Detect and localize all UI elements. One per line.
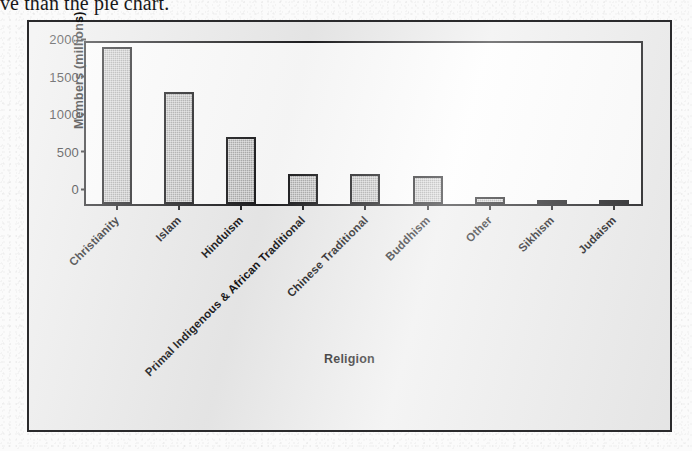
figure-frame: Members (millions) 0500100015002000 Chri… (27, 20, 672, 432)
bar-slot (272, 43, 334, 204)
x-tick-mark (427, 204, 429, 210)
x-axis-label-text: Judaism (576, 214, 618, 256)
bar-slot (210, 43, 272, 204)
x-tick-mark (240, 204, 242, 210)
x-axis-label-text: Christianity (67, 214, 121, 268)
bar (102, 47, 132, 205)
x-axis-label-text: Islam (154, 214, 184, 244)
bar (475, 197, 505, 205)
x-tick-mark (551, 204, 553, 210)
scanned-page: ve than the pie chart. Members (millions… (0, 0, 692, 451)
bar-slot (583, 43, 645, 204)
x-axis-label-text: Buddhism (383, 214, 432, 263)
bar (288, 174, 318, 204)
x-tick-mark (178, 204, 180, 210)
x-tick-mark (613, 204, 615, 210)
bar-slot (86, 43, 148, 204)
x-axis-label-text: Other (463, 214, 494, 245)
x-tick-mark (489, 204, 491, 210)
page-body-text: ve than the pie chart. (0, 0, 330, 15)
y-tick-mark (81, 38, 86, 40)
y-axis-tick: 1500 (49, 69, 86, 84)
y-axis-tick: 1000 (49, 107, 86, 122)
x-axis-title: Religion (29, 352, 670, 366)
bar (164, 92, 194, 205)
x-axis-label-text: Sikhism (516, 214, 556, 254)
y-axis-tick: 500 (57, 144, 86, 159)
bar (226, 137, 256, 205)
x-tick-mark (302, 204, 304, 210)
x-tick-mark (364, 204, 366, 210)
x-tick-mark (116, 204, 118, 210)
y-axis-tick: 2000 (49, 32, 86, 47)
y-axis-tick: 0 (72, 182, 86, 197)
bar-slot (521, 43, 583, 204)
x-axis-label-text: Hinduism (199, 214, 245, 260)
